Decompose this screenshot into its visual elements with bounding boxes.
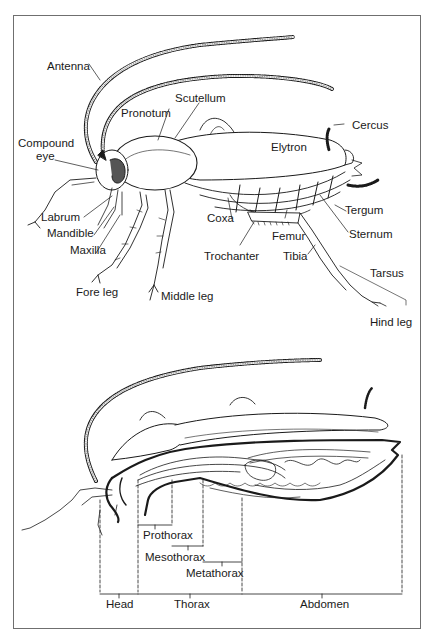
label-antenna: Antenna [47,60,90,73]
label-trochanter: Trochanter [204,250,259,263]
label-metathorax: Metathorax [186,567,244,580]
label-thorax: Thorax [174,598,210,611]
label-cercus: Cercus [352,119,388,132]
label-tarsus: Tarsus [370,267,404,280]
label-mesothorax: Mesothorax [145,551,205,564]
label-coxa: Coxa [207,212,234,225]
label-labrum: Labrum [41,211,80,224]
label-hind-leg: Hind leg [370,316,412,329]
label-pronotum: Pronotum [121,107,171,120]
label-compound-eye-line1: Compound [18,137,74,150]
label-compound-eye-line2: eye [36,150,55,163]
segment-view [22,360,400,535]
label-maxilla: Maxilla [70,244,106,257]
label-sternum: Sternum [349,228,392,241]
label-head: Head [106,598,134,611]
external-view [28,37,406,306]
label-tibia: Tibia [283,250,308,263]
label-tergum: Tergum [345,204,383,217]
label-fore-leg: Fore leg [76,286,118,299]
label-scutellum: Scutellum [175,92,226,105]
label-middle-leg: Middle leg [161,290,213,303]
label-mandible: Mandible [47,227,94,240]
label-elytron: Elytron [271,141,307,154]
label-prothorax: Prothorax [143,529,193,542]
label-femur: Femur [272,230,305,243]
label-abdomen: Abdomen [300,598,349,611]
